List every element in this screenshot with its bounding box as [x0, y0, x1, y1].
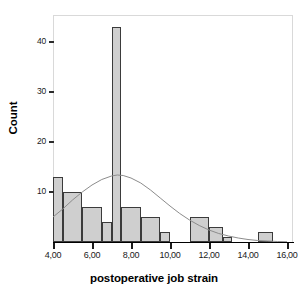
x-axis-tick — [92, 243, 94, 249]
x-axis-tick-label: 8,00 — [111, 250, 151, 260]
x-axis-tick — [170, 243, 172, 249]
y-axis-tick — [49, 91, 54, 93]
x-axis-tick-label: 6,00 — [72, 250, 112, 260]
x-axis-tick-label: 4,00 — [33, 250, 73, 260]
histogram-bar — [82, 207, 102, 242]
x-axis-tick — [131, 243, 133, 249]
x-axis-tick — [287, 243, 289, 249]
histogram-bar — [209, 227, 223, 242]
histogram-chart: 10203040 4,006,008,0010,0012,0014,0016,0… — [0, 0, 308, 307]
y-axis-tick-label: 10 — [24, 186, 46, 196]
y-axis-tick — [49, 191, 54, 193]
histogram-bar — [63, 192, 83, 242]
x-axis-tick — [248, 243, 250, 249]
histogram-bar — [190, 217, 210, 242]
x-axis-tick — [209, 243, 211, 249]
y-axis-title: Count — [7, 88, 19, 148]
x-axis-tick — [53, 243, 55, 249]
histogram-bar — [121, 207, 141, 242]
histogram-bar — [141, 217, 161, 242]
x-axis-line — [53, 242, 294, 243]
x-axis-tick-label: 16,00 — [267, 250, 307, 260]
x-axis-tick-label: 12,00 — [189, 250, 229, 260]
histogram-bar — [160, 232, 170, 242]
x-axis-tick-label: 10,00 — [150, 250, 190, 260]
histogram-bar — [112, 27, 122, 242]
histogram-bar — [102, 222, 112, 242]
y-axis-tick-label: 30 — [24, 86, 46, 96]
x-axis-tick-label: 14,00 — [228, 250, 268, 260]
y-axis-tick — [49, 41, 54, 43]
x-axis-title: postoperative job strain — [0, 272, 308, 284]
histogram-bar — [258, 232, 274, 242]
y-axis-tick — [49, 141, 54, 143]
histogram-bar — [53, 177, 63, 242]
y-axis-tick-label: 40 — [24, 36, 46, 46]
y-axis-tick-label: 20 — [24, 136, 46, 146]
bars-layer — [0, 0, 308, 307]
